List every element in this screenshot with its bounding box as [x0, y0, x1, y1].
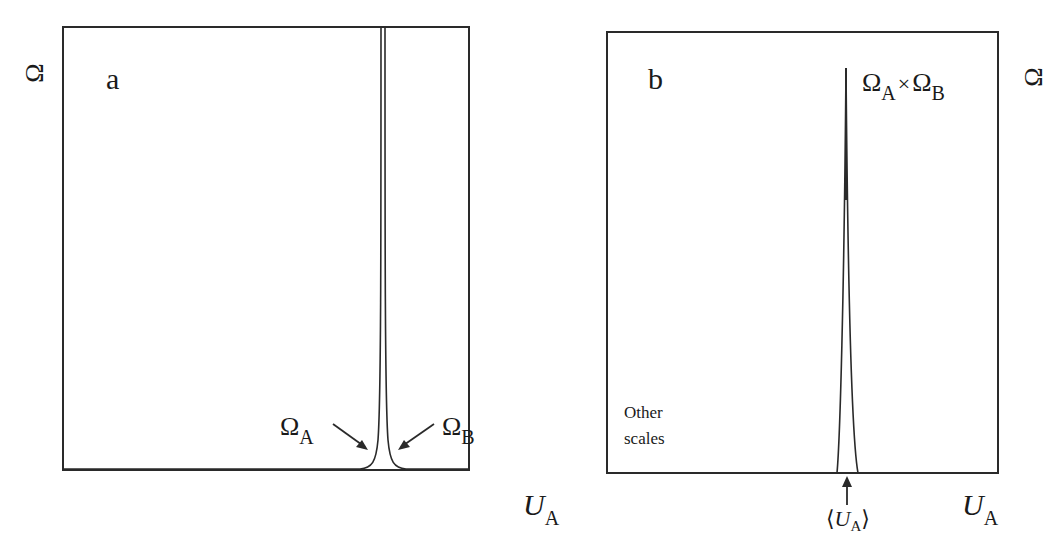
mean-ua-label: ⟨UA⟩ [826, 506, 870, 532]
angle-close: ⟩ [861, 506, 870, 531]
omega-symbol-b: Ω [1019, 67, 1049, 86]
times-symbol: × [898, 71, 910, 96]
panel-b-letter: b [648, 62, 663, 96]
panel-a-y-axis-label: Ω [25, 58, 44, 88]
arrowhead-mean [842, 476, 852, 487]
label-omega-b-sub: B [461, 426, 474, 448]
label-omega-product: ΩA×ΩB [862, 68, 945, 98]
mean-main: U [835, 506, 851, 531]
panel-b-y-axis-label: Ω [1024, 62, 1043, 92]
panel-b-x-axis-label: UA [962, 488, 998, 522]
omega-symbol: Ω [20, 63, 50, 82]
x-axis-a-main: U [523, 488, 545, 521]
label-omega-b: ΩB [442, 412, 475, 442]
angle-open: ⟨ [826, 506, 835, 531]
product-omega-a: Ω [862, 68, 881, 97]
panel-a-x-axis-label: UA [523, 488, 559, 522]
panel-a-frame [63, 27, 469, 470]
other-scales-line-2: scales [624, 426, 665, 452]
curve-omega-product [837, 68, 858, 473]
other-scales-line-1: Other [624, 400, 665, 426]
curve-omega-b [385, 27, 469, 469]
product-omega-b-sub: B [932, 82, 945, 104]
label-omega-a-sub: A [299, 426, 313, 448]
panel-a-letter: a [106, 62, 119, 96]
x-axis-a-sub: A [545, 507, 559, 529]
product-omega-a-sub: A [881, 82, 895, 104]
x-axis-b-main: U [962, 488, 984, 521]
label-omega-b-main: Ω [442, 412, 461, 441]
product-omega-b: Ω [912, 68, 931, 97]
mean-sub: A [850, 518, 861, 534]
label-omega-a-main: Ω [280, 412, 299, 441]
label-omega-a: ΩA [280, 412, 314, 442]
x-axis-b-sub: A [984, 507, 998, 529]
other-scales-note: Other scales [624, 400, 665, 452]
